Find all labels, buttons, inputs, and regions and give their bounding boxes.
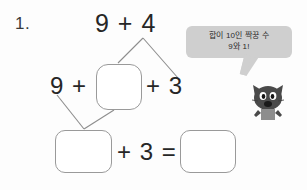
hint-line-1: 합이 10인 짝꿍 수: [186, 30, 292, 41]
worksheet-page: 1. 9 + 4 9 + + 3 + 3 = 합이 10인 짝꿍 수 9와 1!: [0, 0, 307, 190]
bottom-expression: + 3 =: [117, 138, 177, 166]
problem-number: 1.: [15, 14, 30, 34]
hint-speech-bubble: 합이 10인 짝꿍 수 9와 1!: [186, 26, 292, 58]
middle-left-expression: 9 +: [50, 72, 87, 100]
hint-line-2: 9와 1!: [186, 41, 292, 52]
answer-box-bottom-left[interactable]: [55, 130, 112, 173]
top-expression: 9 + 4: [95, 9, 156, 38]
middle-right-expression: + 3: [146, 72, 183, 100]
speech-bubble-tail: [240, 55, 258, 78]
cat-character-icon: [250, 82, 286, 122]
answer-box-middle[interactable]: [96, 64, 142, 110]
answer-box-bottom-right[interactable]: [180, 130, 236, 173]
